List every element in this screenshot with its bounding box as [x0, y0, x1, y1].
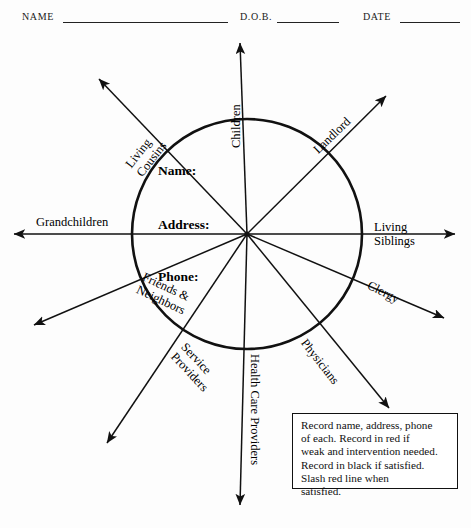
instruction-line: Slash red line when: [301, 472, 450, 485]
spoke-label-line: Children: [230, 104, 244, 148]
spoke-label-grandchildren: Grandchildren: [36, 216, 108, 230]
spoke-line-health-care-providers: [240, 234, 247, 505]
worksheet-page: NAMED.O.B.DATE Name:Address:Phone: Child…: [0, 0, 471, 528]
spoke-line-service-providers: [107, 234, 247, 443]
spoke-label-line: Grandchildren: [36, 216, 108, 230]
spoke-line-physicians: [247, 234, 389, 408]
spoke-label-line: Siblings: [374, 234, 415, 248]
instruction-box: Record name, address, phoneof each. Reco…: [292, 413, 458, 489]
spoke-label-children: Children: [230, 104, 244, 148]
instruction-line: Record name, address, phone: [301, 419, 450, 432]
spoke-label-line: Health Care Providers: [247, 354, 261, 465]
center-field-address[interactable]: Address:: [158, 217, 210, 233]
instruction-line: Record in black if satisfied.: [301, 459, 450, 472]
spoke-line-living-cousins: [99, 79, 247, 234]
spoke-label-living-siblings: LivingSiblings: [374, 221, 415, 248]
center-field-name[interactable]: Name:: [158, 163, 196, 179]
spoke-label-line: Living: [374, 221, 415, 235]
instruction-line: of each. Record in red if: [301, 432, 450, 445]
instruction-line: weak and intervention needed.: [301, 445, 450, 458]
spoke-label-health-care-providers: Health Care Providers: [247, 354, 261, 465]
spoke-line-landlord: [247, 96, 386, 234]
center-hub-dot: [244, 231, 249, 236]
instruction-line: satisfied.: [301, 485, 450, 498]
